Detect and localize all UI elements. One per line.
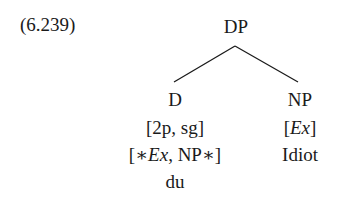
np-features-close: ]: [310, 117, 316, 138]
d-selection: [∗Ex, NP∗]: [129, 144, 221, 166]
node-np: NP: [288, 89, 312, 111]
d-selection-rest: , NP∗]: [168, 144, 221, 165]
branch-right: [235, 46, 298, 82]
node-dp: DP: [224, 16, 248, 38]
d-word: du: [166, 171, 185, 193]
d-selection-ex: Ex: [148, 144, 168, 165]
np-features: [Ex]: [284, 117, 317, 139]
d-selection-open: [∗: [129, 144, 148, 165]
branch-left: [174, 46, 235, 82]
np-features-ex: Ex: [290, 117, 310, 138]
d-features: [2p, sg]: [146, 117, 204, 139]
node-d: D: [168, 89, 182, 111]
np-word: Idiot: [282, 144, 318, 166]
